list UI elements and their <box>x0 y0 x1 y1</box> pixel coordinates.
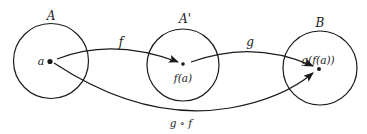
arrow-g-path <box>191 52 313 66</box>
arrow-gof-path <box>54 63 313 111</box>
arrow-gof-label: g ∘ f <box>170 117 195 129</box>
point-a <box>47 59 52 64</box>
point-a-label: a <box>38 55 45 68</box>
set-b: B g(f(a)) <box>283 16 357 105</box>
point-f-a-label: f(a) <box>173 72 192 84</box>
set-a-label: A <box>46 9 56 23</box>
arrow-g-label: g <box>246 35 254 49</box>
point-g-f-a <box>317 67 321 71</box>
arrow-f: f <box>57 35 178 62</box>
arrow-f-path <box>57 49 178 62</box>
set-a: A a <box>14 9 89 99</box>
point-g-f-a-label: g(f(a)) <box>301 54 334 66</box>
composition-diagram: A a A' f(a) B g(f(a)) f g g ∘ f <box>0 0 367 134</box>
set-b-label: B <box>315 16 325 30</box>
arrow-f-label: f <box>118 35 126 49</box>
point-f-a <box>181 62 185 66</box>
set-a-prime-label: A' <box>178 12 191 26</box>
